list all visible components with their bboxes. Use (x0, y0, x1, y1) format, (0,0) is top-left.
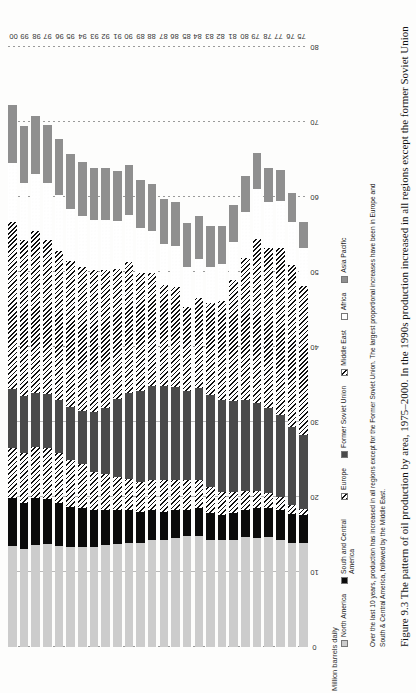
bar-segment (136, 274, 145, 392)
bar-segment (31, 448, 40, 498)
bar-segment (8, 163, 17, 222)
bar-segment (206, 226, 215, 267)
bar-segment (183, 223, 192, 267)
plot-area (8, 47, 308, 647)
bar-segment (276, 497, 285, 511)
bar-segment (299, 286, 308, 435)
bar-segment (276, 511, 285, 541)
bar-segment (8, 547, 17, 648)
legend-item[interactable]: South and Central America (340, 510, 356, 584)
bar-segment (31, 116, 40, 174)
legend-item-label: Asia Pacific (340, 238, 348, 273)
bar-segment (218, 493, 227, 516)
legend-item[interactable]: North America (340, 594, 348, 647)
bar-row (206, 47, 215, 647)
bar-segment (8, 222, 17, 389)
bar-segment (78, 267, 87, 411)
bar-row (229, 47, 238, 647)
bar-segment (43, 183, 52, 240)
bar-segment (299, 515, 308, 544)
legend-item[interactable]: Former Soviet Union (340, 386, 348, 458)
bar-row (241, 47, 250, 647)
me-swatch (341, 369, 348, 376)
bar-segment (218, 515, 227, 541)
bar-segment (55, 454, 64, 504)
bar-segment (78, 411, 87, 464)
legend-item[interactable]: Europe (340, 468, 348, 500)
legend-item-label: Former Soviet Union (340, 386, 348, 448)
bar-segment (241, 176, 250, 212)
bar-segment (8, 105, 17, 164)
chart-figure: 01020304050607080 Million barrels daily … (0, 0, 416, 693)
value-tick-30: 30 (310, 418, 318, 427)
bar-segment (148, 481, 157, 511)
bar-segment (264, 169, 273, 203)
value-tick-0: 0 (312, 643, 316, 652)
bar-segment (113, 171, 122, 221)
bar-row (253, 47, 262, 647)
bar-segment (276, 248, 285, 415)
value-tick-50: 50 (310, 268, 318, 277)
bar-row (218, 47, 227, 647)
bar-segment (206, 513, 215, 540)
bar-segment (148, 184, 157, 231)
bar-segment (288, 265, 297, 427)
bar-segment (66, 407, 75, 460)
bar-segment (160, 541, 169, 648)
value-tick-20: 20 (310, 493, 318, 502)
sca-swatch (341, 577, 348, 584)
value-axis-label: Million barrels daily (330, 571, 339, 691)
bar-segment (101, 220, 110, 270)
bar-segment (136, 512, 145, 544)
bar-segment (43, 499, 52, 544)
bar-segment (160, 512, 169, 541)
bar-segment (8, 448, 17, 498)
bar-segment (78, 464, 87, 508)
bar-row (20, 47, 29, 647)
bar-segment (43, 544, 52, 647)
bar-row (299, 47, 308, 647)
bar-segment (148, 541, 157, 648)
bar-segment (20, 549, 29, 647)
bar-segment (299, 248, 308, 286)
bar-segment (66, 154, 75, 209)
bar-row (113, 47, 122, 647)
legend-item[interactable]: Middle East (340, 330, 348, 376)
bar-row (43, 47, 52, 647)
bar-segment (183, 391, 192, 480)
bar-segment (90, 220, 99, 270)
fsu-swatch (341, 451, 348, 458)
value-tick-10: 10 (310, 568, 318, 577)
bar-segment (90, 547, 99, 647)
bar-segment (101, 169, 110, 221)
bar-segment (55, 503, 64, 546)
bar-row (31, 47, 40, 647)
bar-segment (229, 401, 238, 493)
bar-segment (136, 544, 145, 648)
bar-segment (66, 547, 75, 647)
bar-row (171, 47, 180, 647)
bar-row (276, 47, 285, 647)
bar-segment (183, 480, 192, 510)
bar-row (195, 47, 204, 647)
bar-segment (125, 215, 134, 262)
bar-segment (125, 166, 134, 216)
legend-item[interactable]: Asia Pacific (340, 238, 348, 283)
bar-segment (148, 386, 157, 481)
bar-segment (299, 509, 308, 515)
bar-segment (125, 394, 134, 480)
bar-segment (171, 480, 180, 511)
bar-segment (276, 415, 285, 497)
bar-segment (78, 547, 87, 647)
bar-segment (183, 510, 192, 536)
bar-segment (20, 453, 29, 503)
bar-segment (66, 460, 75, 507)
figure-caption: Figure 9.3 The pattern of oil production… (398, 27, 412, 647)
bar-segment (206, 487, 215, 513)
bar-row (55, 47, 64, 647)
bar-segment (253, 491, 262, 508)
legend-item[interactable]: Africa (340, 293, 348, 320)
bar-segment (195, 217, 204, 260)
bar-segment (253, 508, 262, 538)
bar-row (288, 47, 297, 647)
